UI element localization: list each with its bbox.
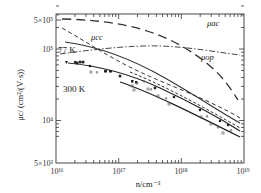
- x-tick-1e16: 10¹⁶: [50, 167, 63, 176]
- annotation-mu-cc: μcc: [90, 32, 103, 42]
- y-tick-5e5: 5×10⁵: [34, 16, 54, 25]
- filled-markers: [65, 60, 229, 126]
- annotation-mu-op: μop: [200, 52, 214, 62]
- annotation-mu-ac: μac: [206, 18, 220, 28]
- mu-cc-curve: [62, 28, 240, 118]
- y-tick-1e5: 10⁵: [42, 45, 53, 54]
- annotation-77k: 77 K: [58, 45, 76, 55]
- x-tick-1e18: 10¹⁸: [174, 167, 187, 176]
- x-axis-label: n/cm⁻³: [136, 179, 161, 189]
- x-tick-1e17: 10¹⁷: [112, 167, 125, 176]
- mobility-chart: μac μcc μop 77 K 300 K 5×10⁵ 10⁵ 10⁴ 5×1…: [0, 0, 261, 193]
- 300k-curve: [68, 63, 240, 131]
- annotation-300k: 300 K: [63, 84, 86, 94]
- open-markers: [90, 71, 232, 134]
- 300k-lower-curve: [120, 82, 240, 137]
- y-axis-label: μc/ (cm²/(V·s)): [15, 69, 25, 121]
- y-tick-1e4: 10⁴: [42, 116, 53, 125]
- x-tick-1e19: 10¹⁹: [236, 167, 249, 176]
